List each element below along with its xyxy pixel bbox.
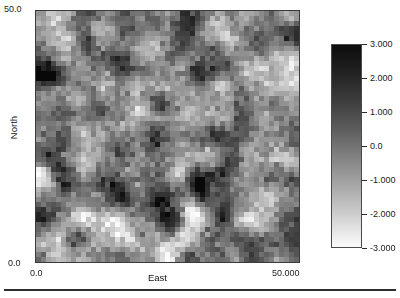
colorbar-tick-label: -3.000 [370, 244, 396, 253]
colorbar-tick-mark [362, 214, 367, 215]
colorbar-tick-mark [362, 248, 367, 249]
heatmap-plot-area [35, 10, 300, 263]
colorbar-tick-label: -2.000 [370, 210, 396, 219]
x-axis-title: East [148, 272, 167, 283]
raster-map-figure: 50.0 0.0 0.0 50.000 East North 3.0002.00… [0, 0, 400, 298]
colorbar-tick-label: -1.000 [370, 176, 396, 185]
y-axis-title: North [8, 106, 19, 150]
colorbar-gradient [331, 44, 362, 248]
colorbar-tick-label: 3.000 [370, 40, 393, 49]
colorbar-tick-mark [362, 112, 367, 113]
x-axis-tick-left: 0.0 [30, 268, 43, 278]
y-axis-tick-top: 50.0 [4, 4, 22, 14]
page-rule [4, 289, 396, 291]
colorbar-tick-mark [362, 44, 367, 45]
colorbar-tick-mark [362, 180, 367, 181]
colorbar-tick-label: 0.0 [370, 142, 383, 151]
x-axis-tick-right: 50.000 [272, 268, 300, 278]
colorbar-tick-label: 2.000 [370, 74, 393, 83]
colorbar-tick-mark [362, 146, 367, 147]
y-axis-tick-bottom: 0.0 [8, 258, 21, 268]
heatmap-raster [36, 11, 299, 262]
colorbar-tick-mark [362, 78, 367, 79]
colorbar-tick-label: 1.000 [370, 108, 393, 117]
colorbar: 3.0002.0001.0000.0-1.000-2.000-3.000 [331, 44, 362, 248]
